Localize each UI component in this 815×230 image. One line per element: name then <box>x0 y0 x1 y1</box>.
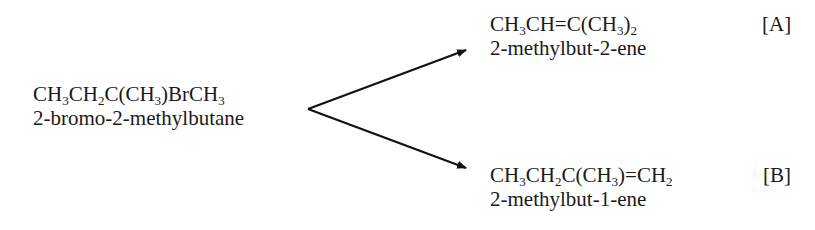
product-a-label: [A] <box>762 12 791 37</box>
product-a: CH3CH=C(CH3)2 2-methylbut-2-ene <box>490 12 646 60</box>
product-b-name: 2-methylbut-1-ene <box>490 187 673 211</box>
arrow-to-product-b <box>308 109 466 168</box>
product-b-label: [B] <box>763 163 791 188</box>
product-b-formula: CH3CH2C(CH3)=CH2 <box>490 163 673 187</box>
product-a-name: 2-methylbut-2-ene <box>490 36 646 60</box>
product-b: CH3CH2C(CH3)=CH2 2-methylbut-1-ene <box>490 163 673 211</box>
product-a-formula: CH3CH=C(CH3)2 <box>490 12 646 36</box>
reaction-arrows <box>0 0 815 230</box>
arrow-to-product-a <box>308 50 466 109</box>
